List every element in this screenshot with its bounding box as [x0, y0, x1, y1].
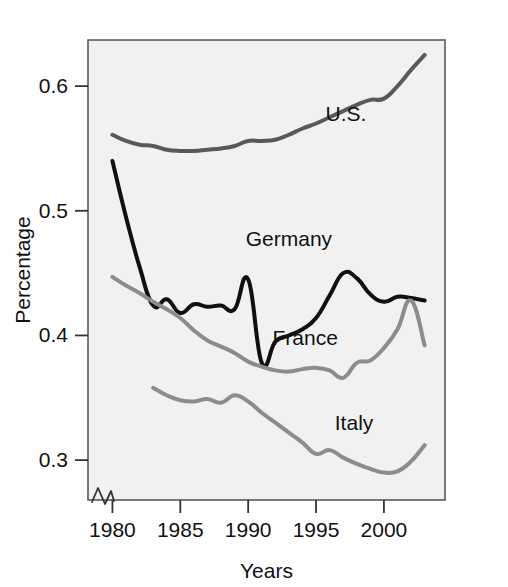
y-tick-label: 0.6	[39, 74, 68, 97]
series-label-us: U.S.	[325, 102, 366, 125]
x-axis-title: Years	[240, 559, 293, 582]
series-label-germany: Germany	[246, 227, 333, 250]
x-tick-label: 1995	[293, 518, 340, 541]
x-tick-label: 1985	[157, 518, 204, 541]
x-tick-label: 1990	[225, 518, 272, 541]
chart-figure: 19801985199019952000 0.30.40.50.6 U.S.Ge…	[0, 0, 508, 587]
y-tick-label: 0.5	[39, 199, 68, 222]
y-tick-label: 0.4	[39, 323, 69, 346]
y-axis-title: Percentage	[11, 216, 34, 323]
x-tick-label: 2000	[361, 518, 408, 541]
y-tick-label: 0.3	[39, 448, 68, 471]
series-label-france: France	[273, 326, 338, 349]
x-tick-label: 1980	[89, 518, 136, 541]
line-chart-svg: 19801985199019952000 0.30.40.50.6 U.S.Ge…	[0, 0, 508, 587]
series-label-italy: Italy	[335, 411, 374, 434]
